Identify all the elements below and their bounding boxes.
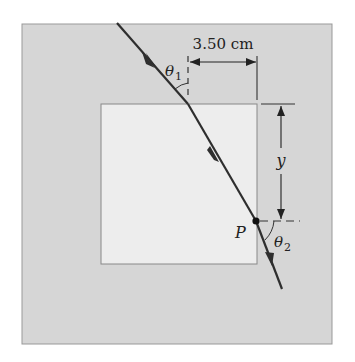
- point-p: [252, 217, 259, 224]
- y-dimension-label: y: [275, 151, 286, 170]
- theta2-subscript: 2: [284, 241, 291, 254]
- theta1-label: θ: [165, 62, 174, 80]
- point-p-label: P: [234, 223, 246, 242]
- refraction-diagram: 3.50 cm θ 1 y P θ 2: [0, 0, 355, 362]
- theta1-subscript: 1: [175, 70, 182, 83]
- width-dimension-label: 3.50 cm: [193, 35, 254, 53]
- theta2-label: θ: [274, 233, 283, 251]
